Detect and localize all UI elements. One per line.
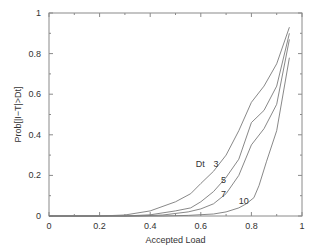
x-tick-label: 0.2	[93, 221, 106, 231]
x-axis-label: Accepted Load	[145, 235, 205, 245]
y-tick-label: 1	[36, 8, 41, 18]
series-line-dt-7	[49, 39, 289, 216]
x-tick-label: 1	[299, 221, 304, 231]
annotations: Dt35710	[196, 159, 249, 206]
x-tick-label: 0.4	[144, 221, 157, 231]
curve-label: Dt	[196, 159, 205, 169]
x-axis: 00.20.40.60.81	[46, 13, 304, 231]
y-tick-label: 0.2	[28, 170, 41, 180]
x-tick-label: 0.8	[245, 221, 258, 231]
y-axis-label: Prob[|I−T|>Dt]	[13, 86, 23, 142]
curve-label: 5	[221, 175, 226, 185]
y-axis: 00.20.40.60.81	[28, 8, 302, 221]
curves	[49, 27, 289, 216]
chart: 00.20.40.60.81 00.20.40.60.81 Dt35710 Ac…	[0, 0, 318, 251]
curve-label: 3	[213, 159, 218, 169]
y-tick-label: 0.6	[28, 89, 41, 99]
y-tick-label: 0.8	[28, 49, 41, 59]
series-line-dt-5	[49, 33, 289, 216]
y-tick-label: 0	[36, 211, 41, 221]
plot-frame	[49, 13, 302, 216]
x-tick-label: 0	[46, 221, 51, 231]
series-line-dt-10	[49, 58, 289, 216]
y-tick-label: 0.4	[28, 130, 41, 140]
curve-label: 7	[221, 189, 226, 199]
series-line-dt-3	[49, 27, 289, 216]
curve-label: 10	[239, 196, 249, 206]
x-tick-label: 0.6	[195, 221, 208, 231]
